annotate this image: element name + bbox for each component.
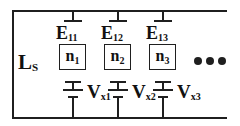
- electrode-label-main: E: [101, 23, 113, 43]
- left-bus-wire: [12, 10, 14, 119]
- node-label-sub: 2: [119, 55, 124, 66]
- node-label: n2: [111, 48, 125, 66]
- left-bus-label: LS: [18, 52, 38, 73]
- cell-column-1: E11 n1 Vx1: [50, 0, 96, 126]
- left-bus-label-sub: S: [32, 61, 38, 73]
- cell-column-3: E13 n3 Vx3: [140, 0, 186, 126]
- source-label-sub: x3: [191, 91, 201, 102]
- electrode-plate: [154, 20, 172, 22]
- continuation-dot: [194, 57, 202, 65]
- electrode-label-sub: 12: [113, 32, 123, 43]
- source-label: Vx3: [177, 82, 201, 102]
- cell-column-2: E12 n2 Vx2: [95, 0, 141, 126]
- source-long-plate: [63, 89, 83, 91]
- electrode-label-main: E: [146, 23, 158, 43]
- electrode-label: E11: [56, 24, 77, 43]
- electrode-plate: [64, 20, 82, 22]
- electrode-label: E12: [101, 24, 123, 43]
- node-label-sub: 3: [164, 55, 169, 66]
- node-box: n3: [149, 44, 176, 70]
- electrode-label-sub: 13: [158, 32, 168, 43]
- source-bottom-wire: [162, 98, 164, 117]
- circuit-schematic-figure: LS E11 n1 Vx1 E12 n2 Vx2 E13 n: [0, 0, 240, 126]
- node-box: n1: [59, 44, 86, 70]
- electrode-plate: [109, 20, 127, 22]
- node-label: n1: [66, 48, 80, 66]
- node-label: n3: [156, 48, 170, 66]
- continuation-dot: [206, 57, 214, 65]
- electrode-label: E13: [146, 24, 168, 43]
- left-bus-label-main: L: [18, 50, 32, 74]
- source-label-main: V: [177, 81, 191, 102]
- electrode-label-main: E: [56, 23, 68, 43]
- source-long-plate: [108, 89, 128, 91]
- continuation-ellipsis-icon: [194, 57, 226, 65]
- source-long-plate: [153, 89, 173, 91]
- source-bottom-wire: [72, 98, 74, 117]
- node-label-sub: 1: [74, 55, 79, 66]
- source-bottom-wire: [117, 98, 119, 117]
- continuation-dot: [218, 57, 226, 65]
- node-box: n2: [104, 44, 131, 70]
- electrode-label-sub: 11: [68, 32, 77, 43]
